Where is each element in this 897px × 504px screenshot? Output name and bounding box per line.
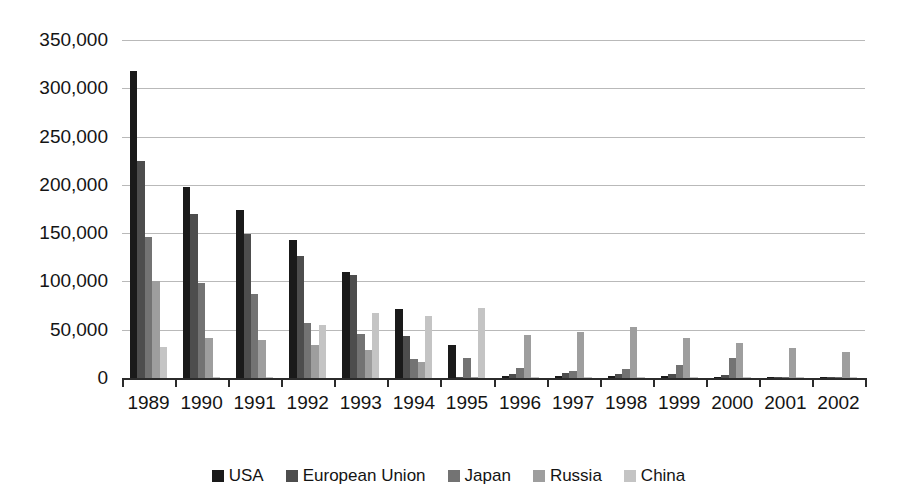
y-tick-label: 250,000 <box>39 126 108 148</box>
x-tick <box>334 378 336 387</box>
year-group-1993 <box>334 40 387 378</box>
legend-label: European Union <box>303 466 426 486</box>
bar-russia-1990 <box>205 338 212 378</box>
year-group-2001 <box>759 40 812 378</box>
year-group-1994 <box>387 40 440 378</box>
y-tick-label: 0 <box>97 367 108 389</box>
legend-swatch-icon <box>448 470 460 482</box>
x-tick-label: 1998 <box>605 392 647 414</box>
bar-russia-1994 <box>418 362 425 378</box>
bar-russia-1998 <box>630 327 637 378</box>
year-group-1991 <box>228 40 281 378</box>
bar-russia-1989 <box>152 281 159 378</box>
x-tick <box>228 378 230 387</box>
bar-russia-2001 <box>789 348 796 378</box>
x-tick <box>281 378 283 387</box>
bar-japan-1994 <box>410 359 417 378</box>
legend-label: Russia <box>550 466 602 486</box>
x-axis: 1989199019911992199319941995199619971998… <box>122 392 865 422</box>
bar-japan-1989 <box>145 237 152 378</box>
x-tick-label: 1992 <box>287 392 329 414</box>
x-tick-label: 1997 <box>552 392 594 414</box>
bar-china-1992 <box>319 325 326 378</box>
legend-label: China <box>641 466 685 486</box>
bar-russia-1993 <box>365 350 372 378</box>
legend-label: Japan <box>465 466 511 486</box>
year-group-1990 <box>175 40 228 378</box>
bar-russia-1996 <box>524 335 531 378</box>
x-tick <box>122 378 124 387</box>
bar-japan-1997 <box>569 371 576 378</box>
legend-item-china[interactable]: China <box>624 466 685 486</box>
year-group-1999 <box>653 40 706 378</box>
bar-japan-2000 <box>729 358 736 378</box>
bar-japan-1992 <box>304 323 311 378</box>
bar-usa-1993 <box>342 272 349 378</box>
x-tick-label: 2001 <box>764 392 806 414</box>
y-tick-label: 200,000 <box>39 174 108 196</box>
y-tick-label: 150,000 <box>39 222 108 244</box>
bar-russia-1991 <box>258 340 265 378</box>
x-tick <box>175 378 177 387</box>
bar-usa-1994 <box>395 309 402 378</box>
bar-chart: 050,000100,000150,000200,000250,000300,0… <box>0 0 897 504</box>
bar-china-1995 <box>478 308 485 378</box>
bar-japan-1999 <box>676 365 683 378</box>
year-group-1995 <box>440 40 493 378</box>
bar-china-1993 <box>372 313 379 378</box>
x-tick-label: 1999 <box>658 392 700 414</box>
chart-legend: USAEuropean UnionJapanRussiaChina <box>0 466 897 486</box>
bar-russia-2002 <box>842 352 849 378</box>
x-tick <box>600 378 602 387</box>
bar-usa-1990 <box>183 187 190 378</box>
x-tick-label: 1996 <box>499 392 541 414</box>
legend-item-european-union[interactable]: European Union <box>286 466 426 486</box>
legend-swatch-icon <box>286 470 298 482</box>
year-group-1996 <box>494 40 547 378</box>
bar-japan-1991 <box>251 294 258 378</box>
bar-japan-1995 <box>463 358 470 378</box>
year-group-1992 <box>281 40 334 378</box>
bar-russia-1999 <box>683 338 690 378</box>
x-tick <box>387 378 389 387</box>
legend-swatch-icon <box>212 470 224 482</box>
y-tick-label: 50,000 <box>50 319 108 341</box>
bar-japan-1996 <box>516 368 523 378</box>
bar-china-1989 <box>160 347 167 378</box>
bar-european-union-1991 <box>244 234 251 378</box>
year-group-1989 <box>122 40 175 378</box>
x-tick-label: 1989 <box>127 392 169 414</box>
x-axis-ticks <box>122 378 865 387</box>
x-tick <box>494 378 496 387</box>
bar-usa-1989 <box>130 71 137 378</box>
year-group-2000 <box>706 40 759 378</box>
bar-japan-1990 <box>198 283 205 378</box>
x-tick-label: 1993 <box>340 392 382 414</box>
bar-european-union-1994 <box>403 336 410 378</box>
y-tick-label: 300,000 <box>39 77 108 99</box>
x-tick-label: 1990 <box>180 392 222 414</box>
x-tick <box>547 378 549 387</box>
bar-european-union-1989 <box>137 161 144 378</box>
year-group-1997 <box>547 40 600 378</box>
bar-china-1994 <box>425 316 432 378</box>
x-tick <box>706 378 708 387</box>
x-tick-label: 1991 <box>234 392 276 414</box>
legend-label: USA <box>229 466 264 486</box>
x-tick <box>440 378 442 387</box>
x-tick <box>812 378 814 387</box>
bar-european-union-1990 <box>190 214 197 378</box>
legend-item-usa[interactable]: USA <box>212 466 264 486</box>
x-tick-label: 1994 <box>393 392 435 414</box>
bar-russia-1992 <box>311 345 318 378</box>
bar-usa-1991 <box>236 210 243 378</box>
legend-item-japan[interactable]: Japan <box>448 466 511 486</box>
year-group-1998 <box>600 40 653 378</box>
bar-usa-1995 <box>448 345 455 378</box>
y-tick-label: 350,000 <box>39 29 108 51</box>
legend-item-russia[interactable]: Russia <box>533 466 602 486</box>
bar-japan-1998 <box>622 369 629 378</box>
year-group-2002 <box>812 40 865 378</box>
x-tick <box>759 378 761 387</box>
y-tick-label: 100,000 <box>39 270 108 292</box>
